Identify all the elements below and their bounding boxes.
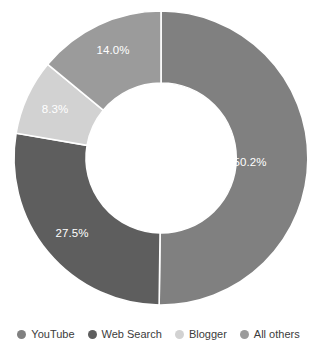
legend-item-label: YouTube [31, 329, 74, 340]
legend-swatch-dot-icon [17, 330, 26, 339]
legend-swatch-dot-icon [175, 330, 184, 339]
legend-item-label: Web Search [102, 329, 162, 340]
slice-percent-label: 27.5% [55, 227, 88, 239]
slice-percent-label: 8.3% [42, 103, 69, 115]
legend-item[interactable]: Blogger [175, 329, 227, 340]
legend-item[interactable]: YouTube [17, 329, 74, 340]
chart-legend: YouTubeWeb SearchBloggerAll others [0, 322, 317, 346]
slice-percent-label: 50.2% [233, 156, 266, 168]
legend-item[interactable]: Web Search [88, 329, 162, 340]
legend-item-label: All others [254, 329, 300, 340]
donut-svg: 50.2%27.5%8.3%14.0% [0, 0, 317, 317]
donut-slice[interactable] [14, 133, 160, 305]
slice-percent-label: 14.0% [96, 44, 129, 56]
legend-item-label: Blogger [189, 329, 227, 340]
donut-plot-area: 50.2%27.5%8.3%14.0% [0, 0, 317, 317]
legend-swatch-dot-icon [240, 330, 249, 339]
legend-item[interactable]: All others [240, 329, 300, 340]
donut-chart: 50.2%27.5%8.3%14.0% YouTubeWeb SearchBlo… [0, 0, 317, 352]
legend-swatch-dot-icon [88, 330, 97, 339]
